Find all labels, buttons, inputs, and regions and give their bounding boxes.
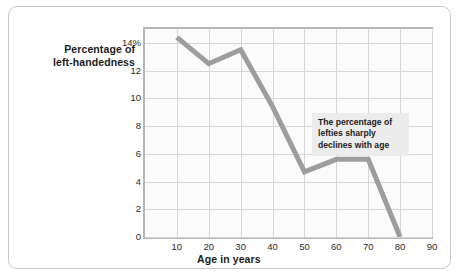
x-axis-title: Age in years [197,253,261,265]
x-axis-tick-label: 20 [194,241,224,252]
x-axis-tick-label: 80 [385,241,415,252]
y-axis-tick-label: 10 [103,92,141,103]
x-axis-tick-label: 70 [353,241,383,252]
y-axis-tick-label: 12 [103,65,141,76]
annotation-line2: lefties sharply [318,128,376,138]
x-axis-tick-label: 50 [289,241,319,252]
annotation-line1: The percentage of [318,117,392,127]
y-axis-tick-label: 2 [103,203,141,214]
chart-annotation: The percentage of lefties sharply declin… [312,113,409,156]
y-axis-tick-label: 6 [103,148,141,159]
y-axis-tick-label: 14% [103,37,141,48]
y-axis-tick-labels: 02468101214% [99,29,141,237]
x-axis-tick-label: 10 [162,241,192,252]
x-axis-tick-labels: 102030405060708090 [145,241,432,255]
x-axis-tick-label: 30 [226,241,256,252]
y-axis-tick-label: 4 [103,176,141,187]
x-axis-tick-label: 90 [417,241,447,252]
y-axis-tick-label: 8 [103,120,141,131]
grid-line-vertical [432,29,433,237]
x-axis-tick-label: 60 [321,241,351,252]
annotation-line3: declines with age [318,140,389,150]
y-axis-tick-label: 0 [103,231,141,242]
figure-card: Percentage of left-handedness 0246810121… [8,6,451,269]
grid-line-horizontal [145,237,432,238]
x-axis-tick-label: 40 [258,241,288,252]
